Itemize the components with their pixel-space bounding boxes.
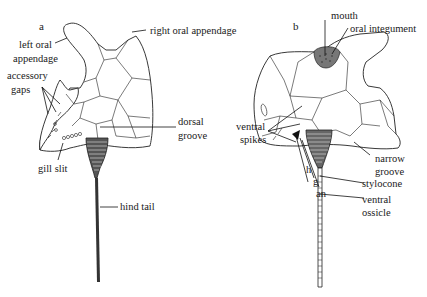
label-dorsal-groove-line1: dorsal — [178, 116, 204, 127]
label-dorsal-groove-line2: groove — [178, 130, 207, 141]
label-stylocone: stylocone — [362, 178, 402, 189]
label-narrow-groove-line2: groove — [375, 166, 404, 177]
label-narrow-groove-line1: narrow — [375, 153, 405, 164]
label-left-oral-appendage-line2: appendage — [13, 53, 58, 64]
label-accessory-gaps-line1: accessory — [7, 70, 48, 81]
panel-b-letter: b — [293, 20, 299, 32]
label-right-oral-appendage: right oral appendage — [150, 25, 236, 36]
label-ventral-spikes-line2: spikes — [240, 134, 266, 145]
label-ventral-ossicle-line1: ventral — [362, 194, 391, 205]
label-g: g — [313, 176, 318, 187]
label-ventral-spikes-line1: ventral — [236, 121, 265, 132]
label-oral-integument: oral integument — [350, 23, 416, 34]
fossil-anatomy-figure: a right oral appendage left oral appenda… — [0, 0, 427, 297]
label-h: h — [306, 164, 311, 175]
label-gill-slit: gill slit — [38, 163, 67, 174]
panel-a-specimen — [39, 23, 176, 282]
label-an: an — [316, 188, 326, 199]
label-hind-tail: hind tail — [120, 201, 155, 212]
label-accessory-gaps-line2: gaps — [11, 84, 30, 95]
label-ventral-ossicle-line2: ossicle — [362, 207, 391, 218]
panel-a-letter: a — [39, 20, 44, 32]
label-left-oral-appendage-line1: left oral — [19, 39, 52, 50]
specimen-drawings — [0, 0, 427, 297]
label-mouth: mouth — [331, 10, 358, 21]
